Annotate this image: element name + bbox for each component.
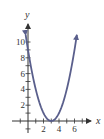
y-tick-label: 2: [21, 100, 26, 110]
y-tick-label: 4: [21, 84, 26, 94]
x-tick-label: 2: [41, 124, 46, 134]
parabola-curve: [26, 35, 77, 121]
y-tick-label: 10: [16, 37, 26, 47]
x-tick-labels: 246: [41, 124, 77, 134]
y-tick-label: 6: [21, 69, 26, 79]
x-tick-label: 6: [72, 124, 77, 134]
parabola-chart: 246 246810 x y: [0, 0, 104, 139]
y-axis-label: y: [24, 9, 30, 20]
x-tick-label: 4: [57, 124, 62, 134]
y-tick-labels: 246810: [16, 37, 26, 110]
y-tick-label: 8: [21, 53, 26, 63]
x-axis-label: x: [95, 115, 101, 126]
